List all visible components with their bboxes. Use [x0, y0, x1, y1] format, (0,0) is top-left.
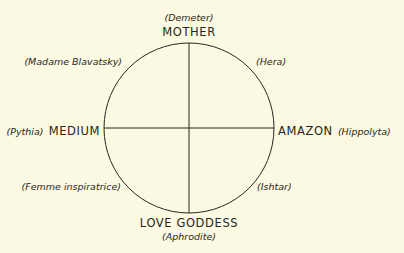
bottom-right-example-label: (Ishtar) — [257, 182, 292, 192]
right-axis-group: AMAZON (Hippolyta) — [278, 122, 391, 138]
top-left-example-label: (Madame Blavatsky) — [24, 57, 122, 67]
bottom-axis-label: LOVE GODDESS — [140, 218, 238, 230]
right-example-label: (Hippolyta) — [338, 126, 391, 137]
top-axis-label: MOTHER — [162, 27, 216, 39]
archetype-diagram: (Demeter) MOTHER LOVE GODDESS (Aphrodite… — [0, 0, 404, 253]
top-example-label: (Demeter) — [164, 13, 213, 23]
bottom-example-label: (Aphrodite) — [162, 232, 216, 242]
left-example-label: (Pythia) — [7, 126, 44, 137]
left-axis-label: MEDIUM — [49, 124, 100, 138]
top-right-example-label: (Hera) — [256, 57, 286, 67]
bottom-left-example-label: (Femme inspiratrice) — [22, 182, 121, 192]
left-axis-group: (Pythia) MEDIUM — [7, 122, 100, 138]
right-axis-label: AMAZON — [278, 124, 333, 138]
